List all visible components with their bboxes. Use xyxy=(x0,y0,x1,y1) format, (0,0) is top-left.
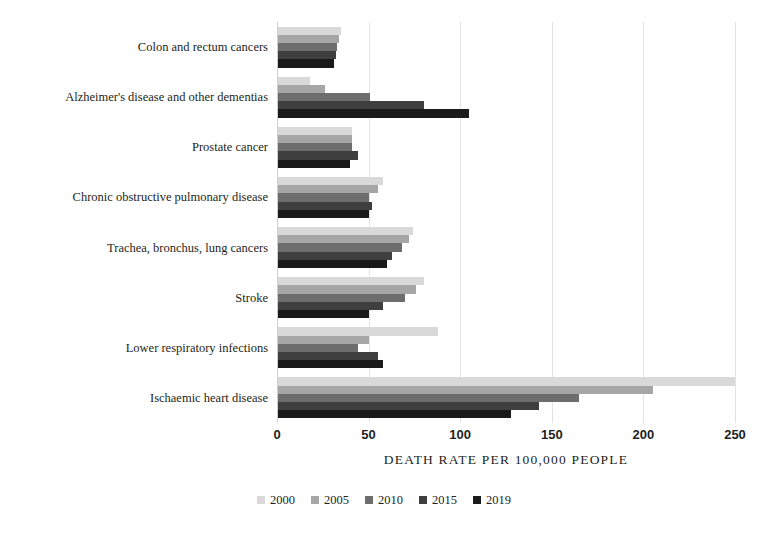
bar-2015 xyxy=(277,402,539,410)
bar-2019 xyxy=(277,109,469,117)
x-tick-label: 200 xyxy=(633,427,655,442)
legend-label: 2005 xyxy=(324,494,349,507)
bar-2000 xyxy=(277,227,413,235)
bar-2005 xyxy=(277,135,352,143)
bar-2015 xyxy=(277,302,383,310)
bar-2000 xyxy=(277,27,341,35)
x-tick-label: 50 xyxy=(361,427,375,442)
legend-swatch-icon xyxy=(257,496,265,504)
bar-2010 xyxy=(277,43,337,51)
bar-2005 xyxy=(277,336,369,344)
bar-2000 xyxy=(277,277,424,285)
category-label: Lower respiratory infections xyxy=(0,340,268,355)
bar-2010 xyxy=(277,294,405,302)
legend-item-2005[interactable]: 2005 xyxy=(311,494,349,507)
bar-2015 xyxy=(277,252,392,260)
bar-2010 xyxy=(277,344,358,352)
bar-2000 xyxy=(277,177,383,185)
legend-item-2000[interactable]: 2000 xyxy=(257,494,295,507)
bar-2015 xyxy=(277,202,372,210)
legend-label: 2010 xyxy=(378,494,403,507)
category-label: Chronic obstructive pulmonary disease xyxy=(0,190,268,205)
bar-group xyxy=(277,72,735,122)
bar-2019 xyxy=(277,410,511,418)
bar-2019 xyxy=(277,210,369,218)
legend-item-2019[interactable]: 2019 xyxy=(473,494,511,507)
legend-swatch-icon xyxy=(365,496,373,504)
bar-2019 xyxy=(277,360,383,368)
bar-2019 xyxy=(277,59,334,67)
chart-legend: 20002005201020152019 xyxy=(0,494,768,507)
x-tick-label: 100 xyxy=(449,427,471,442)
bar-2000 xyxy=(277,377,735,385)
category-label: Ischaemic heart disease xyxy=(0,390,268,405)
bar-2015 xyxy=(277,352,378,360)
bar-2005 xyxy=(277,185,378,193)
x-tick-label: 150 xyxy=(541,427,563,442)
category-label: Prostate cancer xyxy=(0,140,268,155)
bar-chart: 050100150200250 DEATH RATE PER 100,000 P… xyxy=(0,0,768,538)
bar-group xyxy=(277,122,735,172)
legend-swatch-icon xyxy=(419,496,427,504)
bar-2005 xyxy=(277,85,325,93)
bar-2005 xyxy=(277,235,409,243)
bar-2005 xyxy=(277,35,339,43)
x-tick-label: 0 xyxy=(273,427,280,442)
bar-group xyxy=(277,223,735,273)
legend-label: 2000 xyxy=(270,494,295,507)
gridline xyxy=(735,22,736,423)
category-label: Colon and rectum cancers xyxy=(0,40,268,55)
bar-group xyxy=(277,323,735,373)
bar-2005 xyxy=(277,285,416,293)
bar-2010 xyxy=(277,143,352,151)
bar-2000 xyxy=(277,327,438,335)
legend-item-2010[interactable]: 2010 xyxy=(365,494,403,507)
x-tick-label: 250 xyxy=(724,427,746,442)
bar-group xyxy=(277,22,735,72)
bar-2019 xyxy=(277,310,369,318)
category-label: Trachea, bronchus, lung cancers xyxy=(0,240,268,255)
bar-2015 xyxy=(277,51,336,59)
bar-2010 xyxy=(277,394,579,402)
bar-2000 xyxy=(277,77,310,85)
category-label: Alzheimer's disease and other dementias xyxy=(0,90,268,105)
x-axis-title: DEATH RATE PER 100,000 PEOPLE xyxy=(277,452,735,468)
category-label: Stroke xyxy=(0,290,268,305)
bar-2010 xyxy=(277,243,402,251)
legend-label: 2015 xyxy=(432,494,457,507)
bar-group xyxy=(277,172,735,222)
legend-swatch-icon xyxy=(473,496,481,504)
bar-2000 xyxy=(277,127,352,135)
bar-2005 xyxy=(277,386,653,394)
bar-group xyxy=(277,273,735,323)
y-axis-line xyxy=(277,22,278,423)
bar-2019 xyxy=(277,260,387,268)
bar-2015 xyxy=(277,151,358,159)
bar-2010 xyxy=(277,193,369,201)
bar-2019 xyxy=(277,160,350,168)
legend-label: 2019 xyxy=(486,494,511,507)
legend-item-2015[interactable]: 2015 xyxy=(419,494,457,507)
bar-2015 xyxy=(277,101,424,109)
bar-group xyxy=(277,373,735,423)
bar-2010 xyxy=(277,93,370,101)
plot-area xyxy=(277,22,735,423)
legend-swatch-icon xyxy=(311,496,319,504)
